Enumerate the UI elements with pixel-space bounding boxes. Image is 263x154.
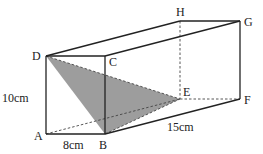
vertex-label-e: E bbox=[183, 85, 190, 99]
vertex-label-g: G bbox=[244, 15, 253, 29]
dimension-height-label: 10cm bbox=[2, 91, 29, 105]
vertex-label-a: A bbox=[34, 129, 43, 143]
vertex-label-d: D bbox=[32, 49, 41, 63]
edge-cg bbox=[105, 21, 240, 56]
edge-dh bbox=[46, 21, 180, 56]
cuboid-diagram: D C A B H G E F 10cm 8cm 15cm bbox=[0, 0, 263, 154]
vertex-label-c: C bbox=[109, 55, 117, 69]
dimension-length-label: 15cm bbox=[167, 120, 194, 134]
dimension-width-label: 8cm bbox=[63, 138, 84, 152]
vertex-label-f: F bbox=[244, 93, 251, 107]
vertex-label-b: B bbox=[99, 138, 107, 152]
vertex-label-h: H bbox=[176, 5, 185, 19]
